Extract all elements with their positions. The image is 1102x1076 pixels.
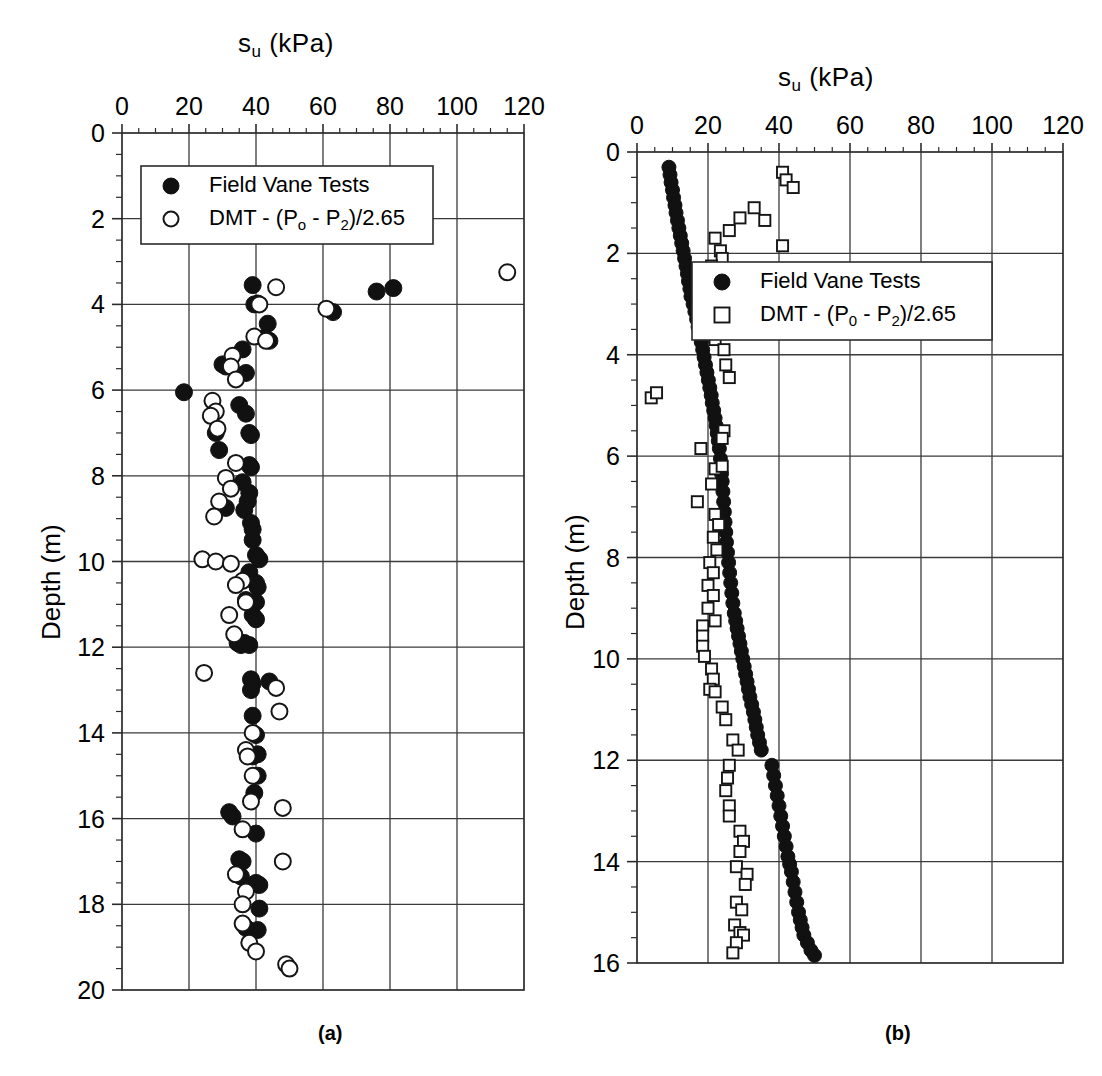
y-tick-label: 12	[77, 633, 105, 661]
data-point-open-square	[711, 544, 722, 555]
x-tick-label: 80	[376, 92, 404, 120]
data-point-open-square	[699, 651, 710, 662]
data-point-filled-circle	[248, 611, 265, 628]
legend-marker-open-circle	[164, 212, 179, 227]
data-point-open-square	[733, 745, 744, 756]
data-point-filled-circle	[242, 427, 259, 444]
data-point-open-circle	[228, 866, 244, 882]
x-tick-label: 60	[309, 92, 337, 120]
data-point-open-square	[702, 603, 713, 614]
data-point-open-square	[788, 182, 799, 193]
data-point-filled-circle	[175, 384, 192, 401]
data-point-filled-circle	[754, 743, 768, 757]
y-tick-label: 8	[606, 544, 620, 572]
data-point-open-circle	[499, 264, 515, 280]
data-point-open-circle	[271, 703, 287, 719]
data-point-open-square	[717, 701, 728, 712]
x-tick-label: 100	[436, 92, 478, 120]
y-tick-label: 10	[592, 645, 620, 673]
y-tick-label: 4	[606, 341, 620, 369]
data-point-open-square	[734, 212, 745, 223]
data-point-open-circle	[240, 748, 256, 764]
data-point-open-circle	[318, 301, 334, 317]
data-point-open-square	[706, 478, 717, 489]
panel-a-plot: 02040608010012002468101214161820Field Va…	[0, 0, 560, 1030]
data-point-open-square	[713, 519, 724, 530]
data-point-open-circle	[238, 594, 254, 610]
y-tick-label: 8	[91, 462, 105, 490]
data-point-open-square	[718, 344, 729, 355]
legend-marker-open-square	[715, 308, 730, 323]
data-point-open-square	[720, 714, 731, 725]
y-tick-label: 4	[91, 290, 105, 318]
y-tick-label: 16	[77, 805, 105, 833]
y-tick-label: 6	[606, 442, 620, 470]
data-point-open-circle	[245, 768, 261, 784]
data-point-open-circle	[223, 481, 239, 497]
y-tick-label: 16	[592, 949, 620, 977]
data-point-filled-circle	[237, 405, 254, 422]
data-point-open-square	[710, 686, 721, 697]
data-point-filled-circle	[249, 579, 266, 596]
data-point-open-square	[727, 947, 738, 958]
data-point-open-circle	[248, 943, 264, 959]
data-point-open-circle	[211, 494, 227, 510]
data-point-filled-circle	[241, 637, 258, 654]
x-tick-label: 40	[765, 111, 793, 139]
data-point-open-circle	[223, 556, 239, 572]
data-point-filled-circle	[244, 277, 261, 294]
data-point-open-square	[708, 590, 719, 601]
data-point-open-circle	[243, 793, 259, 809]
data-point-open-circle	[235, 896, 251, 912]
y-tick-label: 0	[91, 119, 105, 147]
x-tick-label: 40	[242, 92, 270, 120]
data-point-open-square	[720, 359, 731, 370]
data-point-open-square	[740, 879, 751, 890]
data-point-filled-circle	[244, 532, 261, 549]
data-point-filled-circle	[244, 707, 261, 724]
data-point-open-square	[724, 372, 735, 383]
data-point-open-circle	[258, 333, 274, 349]
y-tick-label: 18	[77, 890, 105, 918]
x-tick-label: 80	[907, 111, 935, 139]
x-tick-label: 20	[175, 92, 203, 120]
data-point-open-circle	[196, 665, 212, 681]
x-tick-label: 0	[115, 92, 129, 120]
data-point-open-square	[710, 615, 721, 626]
data-point-open-circle	[235, 916, 251, 932]
data-point-open-square	[736, 904, 747, 915]
y-tick-label: 20	[77, 976, 105, 1004]
x-tick-label: 100	[971, 111, 1013, 139]
data-point-open-circle	[228, 455, 244, 471]
data-point-open-square	[724, 225, 735, 236]
data-point-open-circle	[282, 961, 298, 977]
data-point-open-circle	[228, 577, 244, 593]
legend: Field Vane TestsDMT - (P0 - P2)/2.65	[692, 262, 992, 340]
y-tick-label: 2	[606, 239, 620, 267]
data-point-filled-circle	[251, 900, 268, 917]
data-point-filled-circle	[368, 283, 385, 300]
data-point-open-square	[722, 772, 733, 783]
data-point-open-circle	[221, 607, 237, 623]
x-tick-label: 0	[630, 111, 644, 139]
x-tick-label: 20	[694, 111, 722, 139]
data-point-open-circle	[275, 800, 291, 816]
data-point-open-square	[734, 846, 745, 857]
panel-b-label: (b)	[885, 1022, 911, 1045]
data-point-open-square	[749, 202, 760, 213]
data-point-open-circle	[268, 680, 284, 696]
legend-label: DMT - (P0 - P2)/2.65	[760, 301, 956, 329]
data-point-open-square	[759, 215, 770, 226]
data-point-open-square	[724, 760, 735, 771]
x-tick-label: 60	[836, 111, 864, 139]
data-point-filled-circle	[385, 280, 402, 297]
data-point-open-square	[724, 810, 735, 821]
data-point-open-square	[651, 387, 662, 398]
y-tick-label: 2	[91, 205, 105, 233]
data-point-open-circle	[245, 725, 261, 741]
y-tick-label: 14	[77, 719, 105, 747]
y-tick-label: 6	[91, 376, 105, 404]
data-point-open-circle	[235, 821, 251, 837]
legend: Field Vane TestsDMT - (Po - P2)/2.65	[141, 166, 433, 244]
data-point-open-square	[717, 461, 728, 472]
